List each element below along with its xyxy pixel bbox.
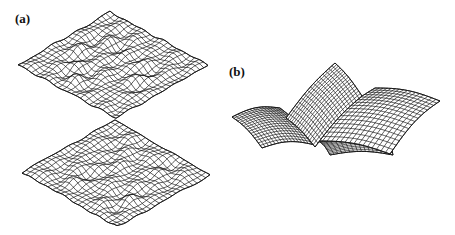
lower-rough-surface: [22, 120, 210, 226]
figure-canvas: [0, 0, 455, 235]
leaf-surfaces: [232, 63, 440, 155]
upper-rough-surface: [18, 11, 208, 118]
